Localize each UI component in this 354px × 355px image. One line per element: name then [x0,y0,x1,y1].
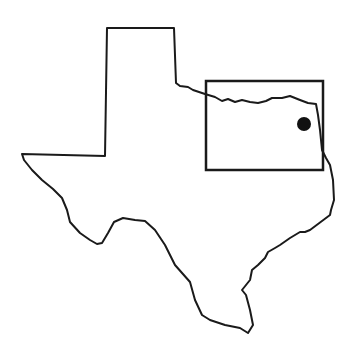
texas-map [0,0,354,355]
map-canvas [0,0,354,355]
texas-outline [22,28,334,333]
location-marker-dot [297,117,311,131]
